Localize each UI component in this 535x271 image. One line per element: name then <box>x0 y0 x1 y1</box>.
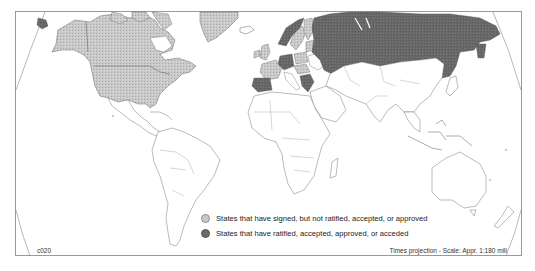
region-chukotka <box>37 18 48 29</box>
legend-label-signed: States that have signed, but not ratifie… <box>216 214 428 223</box>
region-caribbean <box>150 112 172 120</box>
signed-swatch-icon <box>201 214 210 223</box>
ratified-swatch-icon <box>201 229 210 238</box>
region-new-zealand <box>494 206 514 228</box>
legend-item-ratified: States that have ratified, accepted, app… <box>201 226 428 241</box>
region-kamchatka <box>476 44 486 58</box>
projection-curve-left-bottom <box>16 210 30 256</box>
legend-item-signed: States that have signed, but not ratifie… <box>201 211 428 226</box>
region-greenland <box>200 12 238 42</box>
region-tasmania <box>470 210 476 216</box>
region-north-america <box>52 12 196 108</box>
projection-scale-note: Times projection - Scale: Appr. 1:180 mi… <box>389 247 507 254</box>
region-madagascar <box>330 158 338 178</box>
region-australia <box>432 152 486 208</box>
map-code: c020 <box>37 247 51 254</box>
region-iceland <box>240 26 254 34</box>
region-southeast-asia <box>404 112 420 132</box>
legend-label-ratified: States that have ratified, accepted, app… <box>216 229 409 238</box>
map-legend: States that have signed, but not ratifie… <box>201 211 428 241</box>
projection-curve-right-top <box>493 12 521 90</box>
